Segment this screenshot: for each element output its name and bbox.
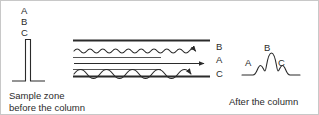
chromatography-diagram: A B C B A C B A C Sample zone before the…	[0, 0, 319, 115]
sample-label-B: B	[21, 17, 27, 27]
peak-label-B: B	[264, 43, 270, 53]
caption-before-column-line2: before the column	[9, 102, 85, 114]
track-label-A: A	[216, 55, 222, 65]
sample-label-C: C	[21, 28, 28, 38]
peak-label-C: C	[278, 58, 285, 68]
sample-label-A: A	[21, 6, 27, 16]
track-path-B	[74, 49, 196, 53]
caption-before-column: Sample zone before the column	[9, 90, 85, 113]
track-label-B: B	[216, 42, 222, 52]
caption-after-column: After the column	[229, 96, 298, 108]
column-walls	[73, 41, 210, 77]
track-label-C: C	[216, 69, 223, 79]
peak-label-A: A	[245, 58, 251, 68]
sample-zone-peak	[12, 40, 45, 82]
caption-before-column-line1: Sample zone	[9, 90, 85, 102]
